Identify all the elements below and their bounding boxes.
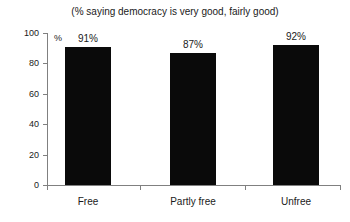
y-axis-line (47, 33, 48, 186)
bar-partly-free (170, 53, 216, 185)
chart-title: (% saying democracy is very good, fairly… (0, 6, 350, 18)
bar-group-partly-free: 87% (170, 33, 216, 185)
x-tick-mark (47, 185, 48, 190)
bar-unfree (273, 45, 319, 185)
y-tick-label: 100 (5, 29, 39, 38)
x-tick-mark (340, 185, 341, 190)
x-category-label-partly-free: Partly free (155, 196, 231, 207)
y-tick-mark (43, 155, 47, 156)
y-tick-mark (43, 94, 47, 95)
bar-value-label: 87% (156, 40, 230, 50)
y-tick-mark (43, 33, 47, 34)
x-tick-mark (140, 185, 141, 190)
bar-value-label: 91% (51, 34, 125, 44)
x-tick-mark (245, 185, 246, 190)
y-tick-label: 20 (5, 151, 39, 160)
y-tick-label: 60 (5, 90, 39, 99)
y-tick-mark (43, 124, 47, 125)
x-category-label-unfree: Unfree (268, 196, 324, 207)
y-tick-label: 0 (5, 181, 39, 190)
bar-group-unfree: 92% (273, 33, 319, 185)
bar-free (65, 47, 111, 185)
y-tick-mark (43, 63, 47, 64)
bar-chart: (% saying democracy is very good, fairly… (0, 0, 350, 222)
x-axis-line (47, 185, 341, 186)
y-tick-label: 80 (5, 59, 39, 68)
x-category-label-free: Free (65, 196, 111, 207)
y-tick-label: 40 (5, 120, 39, 129)
bar-value-label: 92% (259, 32, 333, 42)
bar-group-free: 91% (65, 33, 111, 185)
